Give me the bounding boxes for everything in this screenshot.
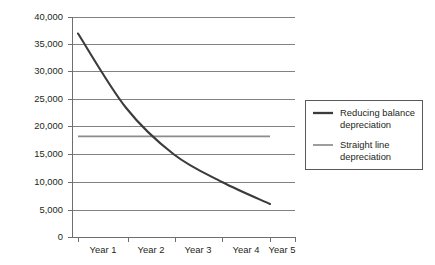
y-label-5000: 5,000 — [40, 204, 63, 215]
x-label-year-3: Year 3 — [185, 244, 212, 255]
x-label-year-4: Year 4 — [233, 244, 260, 255]
y-label-35000: 35,000 — [34, 38, 63, 49]
y-label-0: 0 — [58, 231, 63, 242]
y-label-10000: 10,000 — [34, 176, 63, 187]
chart-legend: Reducing balance depreciation Straight l… — [306, 101, 423, 170]
legend-label-straight-line-line1: Straight line — [340, 139, 390, 150]
y-label-30000: 30,000 — [34, 65, 63, 76]
x-label-year-2: Year 2 — [138, 244, 165, 255]
chart-canvas: 40,000 35,000 30,000 25,000 20,000 15,00… — [0, 0, 435, 265]
depreciation-line-chart: 40,000 35,000 30,000 25,000 20,000 15,00… — [0, 0, 435, 265]
legend-label-reducing-balance-line2: depreciation — [340, 119, 391, 130]
x-label-year-5: Year 5 — [269, 244, 296, 255]
legend-label-reducing-balance-line1: Reducing balance — [340, 107, 415, 118]
y-label-20000: 20,000 — [34, 120, 63, 131]
legend-label-straight-line-line2: depreciation — [340, 151, 391, 162]
y-label-40000: 40,000 — [34, 11, 63, 22]
y-axis-labels: 40,000 35,000 30,000 25,000 20,000 15,00… — [34, 11, 63, 242]
y-label-15000: 15,000 — [34, 148, 63, 159]
x-label-year-1: Year 1 — [90, 244, 117, 255]
y-label-25000: 25,000 — [34, 93, 63, 104]
